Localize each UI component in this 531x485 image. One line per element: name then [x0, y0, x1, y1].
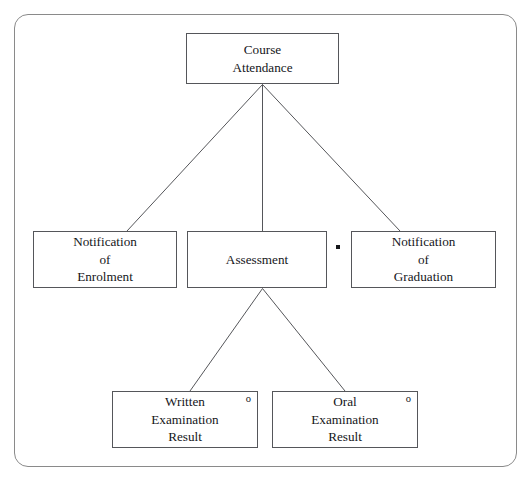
node-assessment[interactable]: Assessment — [187, 231, 327, 288]
node-course-attendance-label: Course Attendance — [228, 41, 296, 76]
node-oral-examination-result[interactable]: Oral Examination Result o — [272, 391, 418, 448]
diagram-canvas: Course Attendance Notification of Enrolm… — [0, 0, 531, 485]
node-notification-of-enrolment[interactable]: Notification of Enrolment — [33, 231, 177, 288]
node-course-attendance[interactable]: Course Attendance — [186, 33, 339, 84]
node-written-examination-result[interactable]: Written Examination Result o — [112, 391, 258, 448]
node-notification-of-graduation[interactable]: Notification of Graduation — [351, 231, 496, 288]
node-notification-of-graduation-label: Notification of Graduation — [388, 233, 460, 285]
optional-marker-oral-examination-result: o — [406, 394, 411, 405]
node-notification-of-enrolment-label: Notification of Enrolment — [69, 233, 141, 285]
optional-marker-written-examination-result: o — [246, 394, 251, 405]
node-assessment-label: Assessment — [222, 251, 292, 268]
node-written-examination-result-label: Written Examination Result — [147, 393, 222, 445]
repetition-dot-marker — [336, 245, 340, 249]
node-oral-examination-result-label: Oral Examination Result — [307, 393, 382, 445]
